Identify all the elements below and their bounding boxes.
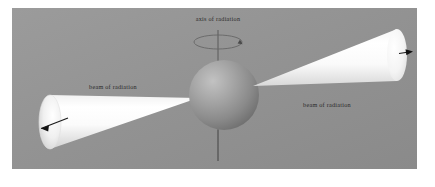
beam-right-cone-opening <box>387 29 407 81</box>
axis-of-radiation-label: axis of radiation <box>196 15 240 22</box>
pulsar-diagram-figure: axis of radiation beam of radiation beam… <box>0 0 435 187</box>
neutron-star-sphere <box>189 60 259 130</box>
beam-right-label: beam of radiation <box>303 101 351 108</box>
beam-left-label: beam of radiation <box>89 83 137 90</box>
diagram-canvas: axis of radiation beam of radiation beam… <box>0 0 435 187</box>
